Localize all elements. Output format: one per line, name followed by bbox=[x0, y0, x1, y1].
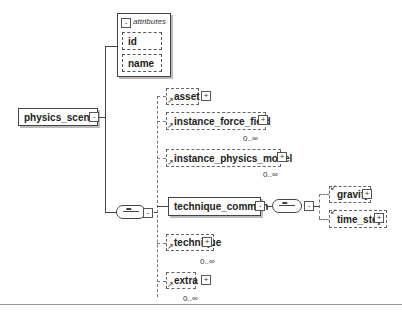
occurrence-label: 0..∞ bbox=[183, 294, 198, 303]
element-instance-force-field[interactable]: ↗ instance_force_field bbox=[166, 112, 266, 130]
connector bbox=[157, 121, 166, 122]
reference-arrow-icon: ↗ bbox=[167, 158, 174, 167]
sequence-compositor-icon bbox=[272, 199, 302, 213]
attributes-box: - attributes id name bbox=[117, 13, 171, 77]
element-technique-common[interactable]: technique_common bbox=[168, 197, 261, 216]
connector bbox=[157, 96, 158, 297]
connector bbox=[157, 281, 166, 282]
connector bbox=[319, 219, 329, 220]
reference-arrow-icon: ↙ bbox=[330, 183, 337, 192]
collapse-attributes-toggle[interactable]: - bbox=[121, 18, 131, 28]
connector bbox=[157, 96, 166, 97]
reference-arrow-icon: ↙ bbox=[330, 207, 337, 216]
reference-arrow-icon: ↗ bbox=[167, 121, 174, 130]
expand-asset-toggle[interactable]: + bbox=[201, 91, 211, 101]
expand-gravity-toggle[interactable]: + bbox=[362, 189, 372, 199]
reference-arrow-icon: ↗ bbox=[167, 280, 174, 289]
attribute-name[interactable]: name bbox=[122, 54, 162, 72]
divider bbox=[0, 304, 402, 305]
collapse-sequence-toggle[interactable]: - bbox=[143, 208, 153, 218]
expand-instance-physics-model-toggle[interactable]: + bbox=[277, 152, 287, 162]
expand-time-step-toggle[interactable]: + bbox=[374, 213, 384, 223]
attribute-id[interactable]: id bbox=[122, 32, 162, 50]
element-asset[interactable]: ↗ asset bbox=[166, 88, 199, 105]
element-extra[interactable]: ↗ extra bbox=[166, 272, 196, 289]
reference-arrow-icon: ↗ bbox=[167, 96, 174, 105]
expand-technique-toggle[interactable]: + bbox=[202, 237, 212, 247]
sequence-compositor-icon bbox=[116, 205, 146, 219]
connector bbox=[157, 206, 168, 207]
connector bbox=[157, 243, 166, 244]
reference-arrow-icon: ↗ bbox=[167, 242, 174, 251]
connector bbox=[319, 194, 329, 195]
connector bbox=[157, 158, 166, 159]
occurrence-label: 0..∞ bbox=[263, 170, 278, 179]
connector bbox=[105, 46, 117, 47]
attributes-title: attributes bbox=[133, 17, 166, 26]
collapse-technique-common-sequence-toggle[interactable]: - bbox=[304, 201, 314, 211]
root-element-physics-scene[interactable]: physics_scene bbox=[18, 108, 98, 126]
connector bbox=[319, 194, 320, 219]
expand-instance-force-field-toggle[interactable]: + bbox=[258, 115, 268, 125]
expand-extra-toggle[interactable]: + bbox=[201, 275, 211, 285]
collapse-technique-common-toggle[interactable]: - bbox=[255, 201, 265, 211]
occurrence-label: 0..∞ bbox=[243, 134, 258, 143]
element-instance-physics-model[interactable]: ↗ instance_physics_model bbox=[166, 149, 281, 167]
occurrence-label: 0..∞ bbox=[200, 257, 215, 266]
connector bbox=[105, 46, 106, 212]
collapse-root-toggle[interactable]: - bbox=[89, 112, 99, 122]
